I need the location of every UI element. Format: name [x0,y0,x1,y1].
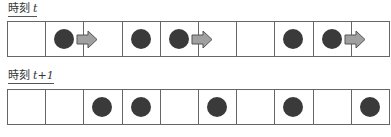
car-circle-icon [322,29,342,49]
car-circle-icon [207,97,227,117]
car-circle-icon [54,29,74,49]
cell-2 [46,90,84,124]
car-circle-icon [169,29,189,49]
cell-2 [46,22,84,56]
cell-10 [352,90,389,124]
label-time-t-plus-1: 時刻t+1 [8,69,54,84]
label-var: t [33,2,37,15]
car-circle-icon [283,29,303,49]
cell-row-time-t [7,21,390,57]
cell-6 [199,90,237,124]
cell-7 [237,22,275,56]
label-prefix: 時刻 [8,69,30,82]
cell-5 [161,90,199,124]
cell-9 [314,90,352,124]
right-arrow-icon [344,30,366,49]
right-arrow-icon [191,30,213,49]
cell-3 [84,90,122,124]
cell-row-time-t-plus-1 [7,89,390,125]
car-circle-icon [360,97,380,117]
cell-4 [123,22,161,56]
cell-4 [123,90,161,124]
label-time-t: 時刻t [8,2,37,17]
cell-5 [161,22,199,56]
label-var: t+1 [33,69,54,82]
cell-9 [314,22,352,56]
cell-1 [8,22,46,56]
car-circle-icon [131,97,151,117]
cell-8 [275,22,313,56]
car-circle-icon [131,29,151,49]
cell-7 [237,90,275,124]
car-circle-icon [283,97,303,117]
cell-8 [275,90,313,124]
label-prefix: 時刻 [8,2,30,15]
cell-1 [8,90,46,124]
car-circle-icon [92,97,112,117]
right-arrow-icon [76,30,98,49]
